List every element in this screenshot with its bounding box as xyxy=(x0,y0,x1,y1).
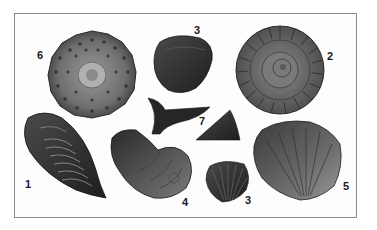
label-3-top: 3 xyxy=(194,25,200,36)
brachiopod-bottom-fossil xyxy=(206,161,249,202)
ammonite-fossil xyxy=(236,26,324,114)
label-7: 7 xyxy=(199,116,205,127)
label-5: 5 xyxy=(343,181,349,192)
label-3-bottom: 3 xyxy=(245,195,251,206)
echinoid-fossil xyxy=(48,31,136,118)
label-6: 6 xyxy=(37,50,43,61)
nautiloid-fossil xyxy=(111,130,192,199)
label-2: 2 xyxy=(327,51,333,62)
large-brachiopod-fossil xyxy=(254,121,341,200)
brachiopod-top-fossil xyxy=(154,36,212,93)
fossil-plate-illustration xyxy=(0,0,377,230)
label-4: 4 xyxy=(182,197,188,208)
label-1: 1 xyxy=(25,179,31,190)
trilobite-fossil xyxy=(24,113,106,198)
